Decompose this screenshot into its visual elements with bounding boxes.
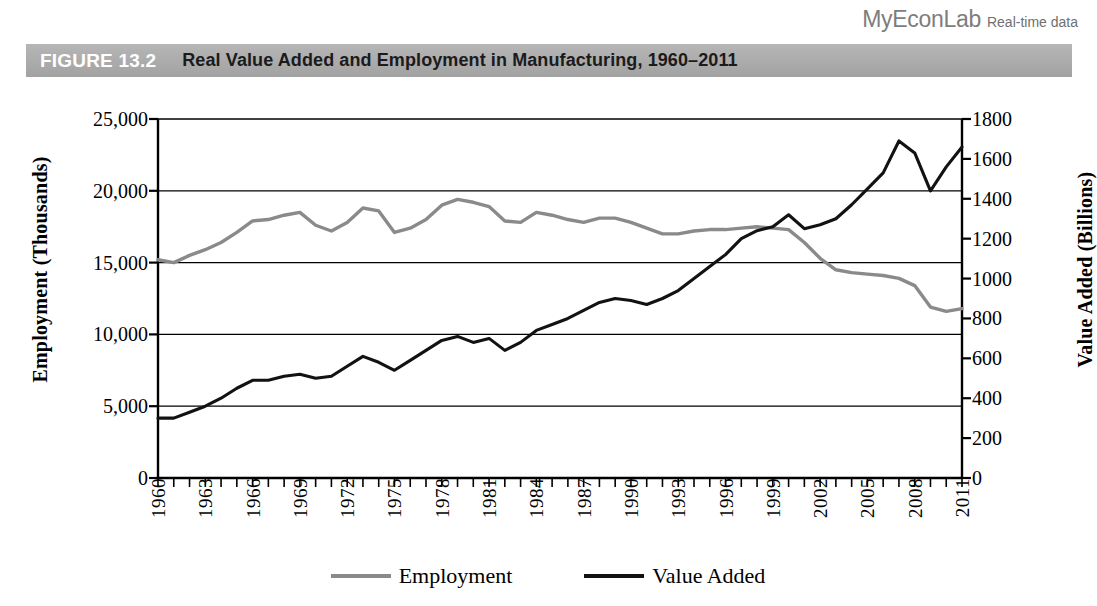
legend-line-swatch (331, 574, 391, 578)
x-axis-tick-label: 2011 (952, 478, 974, 517)
myeconlab-brand-strip: MyEconLab Real-time data (0, 2, 1096, 36)
x-axis-tick-label: 1960 (148, 478, 170, 518)
chart-legend: EmploymentValue Added (0, 556, 1096, 596)
x-axis-tick-label: 1966 (243, 478, 265, 518)
x-axis-tick-label: 1996 (716, 478, 738, 518)
legend-label: Employment (399, 563, 513, 589)
x-axis-tick-label: 1981 (479, 478, 501, 518)
x-axis-tick-label: 1963 (195, 478, 217, 518)
x-axis-tick-label: 2005 (857, 478, 879, 518)
x-axis-tick-label: 1993 (668, 478, 690, 518)
x-axis-tick-label: 1990 (621, 478, 643, 518)
x-axis-tick-label: 1975 (384, 478, 406, 518)
figure-title-bar: FIGURE 13.2 Real Value Added and Employm… (26, 44, 1072, 77)
legend-item: Employment (331, 563, 513, 589)
series-line-employment (158, 199, 962, 311)
x-axis-tick-label: 2002 (810, 478, 832, 518)
realtime-data-label: Real-time data (987, 14, 1078, 30)
chart-area: Employment (Thousands) Value Added (Bill… (0, 88, 1096, 508)
x-axis-tick-label: 1978 (432, 478, 454, 518)
brand-wrap: MyEconLab Real-time data (862, 6, 1078, 33)
chart-plot (0, 88, 1096, 508)
x-axis-tick-label: 1987 (574, 478, 596, 518)
myeconlab-logo-text: MyEconLab (862, 6, 981, 33)
x-axis-tick-label: 1984 (526, 478, 548, 518)
x-axis-tick-label: 1972 (337, 478, 359, 518)
x-axis-labels: 1960196319661969197219751978198119841987… (0, 478, 1096, 568)
x-axis-tick-label: 2008 (905, 478, 927, 518)
legend-label: Value Added (652, 563, 765, 589)
x-axis-tick-label: 1999 (763, 478, 785, 518)
legend-item: Value Added (584, 563, 765, 589)
figure-title-text: Real Value Added and Employment in Manuf… (182, 50, 737, 71)
x-axis-tick-label: 1969 (290, 478, 312, 518)
series-line-value-added (158, 141, 962, 418)
legend-line-swatch (584, 574, 644, 578)
figure-number-label: FIGURE 13.2 (40, 50, 156, 72)
